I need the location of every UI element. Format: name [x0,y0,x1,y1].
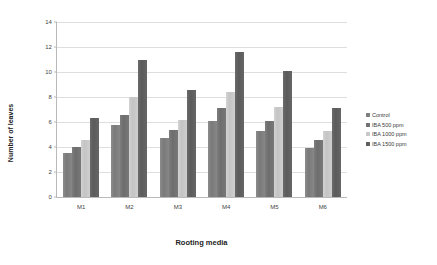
legend-item: IBA 500 ppm [366,122,407,128]
bar [332,108,341,197]
legend-label: IBA 1500 ppm [372,141,407,147]
bar [226,92,235,197]
legend-swatch [366,132,370,136]
y-tick-label: 0 [49,194,52,200]
y-tick-label: 8 [49,94,52,100]
bar [81,140,90,198]
legend-label: Control [372,112,390,118]
bar [323,131,332,197]
bar-group: M2 [105,22,153,197]
x-tick-label: M2 [125,204,133,210]
x-axis-title: Rooting media [56,238,347,247]
x-tick-label: M5 [270,204,278,210]
bar-group: M6 [299,22,347,197]
bar [256,131,265,197]
plot-area: 02468101214 M1M2M3M4M5M6 [56,22,347,198]
bar [169,130,178,198]
y-axis-title: Number of leaves [7,103,14,161]
bar [208,121,217,197]
legend-label: IBA 1000 ppm [372,131,407,137]
y-tick-label: 6 [49,119,52,125]
legend-swatch [366,123,370,127]
bar [120,115,129,198]
bar [63,153,72,197]
bar [305,148,314,197]
legend-item: Control [366,112,407,118]
bar [160,138,169,197]
bar [90,118,99,197]
legend-swatch [366,113,370,117]
bar [72,147,81,197]
bar [217,108,226,197]
legend-swatch [366,142,370,146]
bar [314,140,323,198]
bar [265,121,274,197]
legend: ControlIBA 500 ppmIBA 1000 ppmIBA 1500 p… [366,112,407,147]
bar-chart: Number of leaves 02468101214 M1M2M3M4M5M… [0,0,437,265]
y-tick-label: 4 [49,144,52,150]
bar-group: M1 [57,22,105,197]
bar [129,97,138,197]
bar [178,120,187,198]
y-tick-label: 2 [49,169,52,175]
bar-group: M4 [202,22,250,197]
x-tick-label: M1 [77,204,85,210]
bar-group: M5 [250,22,298,197]
y-tick-label: 12 [45,44,52,50]
bar [274,107,283,197]
bar [111,125,120,198]
bar [187,90,196,198]
bar [138,60,147,198]
y-tick-label: 10 [45,69,52,75]
x-tick-label: M3 [174,204,182,210]
x-tick-label: M4 [222,204,230,210]
legend-item: IBA 1000 ppm [366,131,407,137]
bar-groups: M1M2M3M4M5M6 [57,22,347,197]
bar [235,52,244,197]
bar-group: M3 [154,22,202,197]
y-tick-label: 14 [45,19,52,25]
legend-item: IBA 1500 ppm [366,141,407,147]
legend-label: IBA 500 ppm [372,122,404,128]
x-tick-label: M6 [319,204,327,210]
bar [283,71,292,197]
